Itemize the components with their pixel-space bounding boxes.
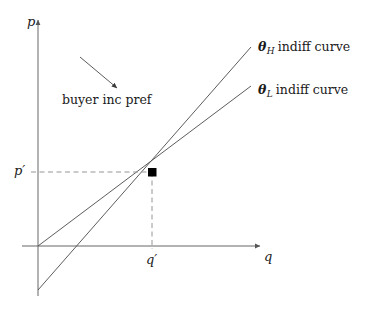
- indifference-curve-figure: p q p′ q′ θHindiff curve θLindiff curve …: [0, 0, 367, 316]
- theta-h-subscript: H: [266, 46, 274, 56]
- q-prime-tick-label: q′: [146, 253, 157, 266]
- intersection-point-marker: [148, 168, 157, 177]
- p-prime-mark: ′: [22, 163, 25, 178]
- theta-h-text: indiff curve: [275, 39, 350, 54]
- x-axis-label: q: [264, 250, 272, 263]
- theta-h-indiff-curve: [38, 47, 251, 290]
- theta-l-subscript: L: [266, 89, 272, 99]
- buyer-inc-pref-label: buyer inc pref: [62, 94, 151, 107]
- theta-h-curve-label: θHindiff curve: [258, 41, 350, 56]
- theta-l-curve-label: θLindiff curve: [258, 84, 348, 99]
- p-prime-tick-label: p′: [14, 164, 25, 177]
- theta-l-text: indiff curve: [273, 82, 348, 97]
- q-prime-mark: ′: [154, 252, 157, 267]
- buyer-inc-pref-arrow: [80, 57, 117, 88]
- y-axis-label: p: [27, 15, 35, 28]
- theta-l-indiff-curve: [38, 86, 251, 246]
